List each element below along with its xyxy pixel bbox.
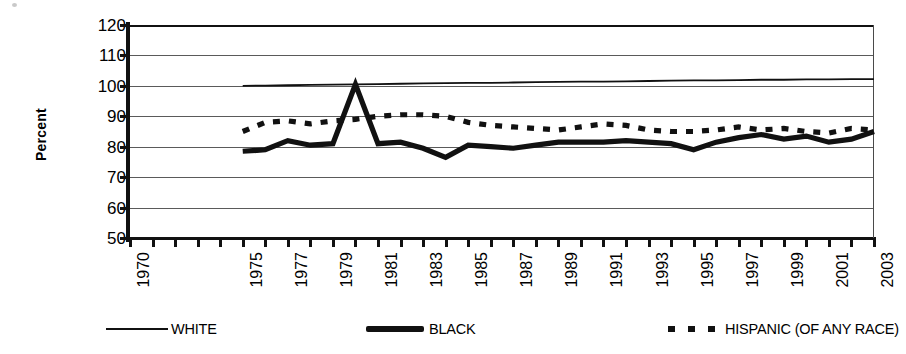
x-axis-tick-1987	[512, 240, 515, 247]
y-axis-tick-labels: 5060708090100110120	[78, 16, 126, 242]
x-axis-tick-1999	[783, 240, 786, 247]
chart-legend: WHITEBLACKHISPANIC (OF ANY RACE)	[106, 318, 806, 344]
x-axis-tick-1974	[219, 240, 222, 247]
legend-entry-white[interactable]: WHITE	[106, 318, 217, 340]
x-axis-tick-1995	[693, 240, 696, 247]
x-axis-tick-1996	[715, 240, 718, 247]
thick-line-swatch	[364, 323, 426, 335]
legend-entry-hispanic-of-any-race[interactable]: HISPANIC (OF ANY RACE)	[660, 318, 899, 340]
x-tick-label-1970: 1970	[136, 252, 152, 288]
x-tick-label-1987: 1987	[519, 252, 535, 288]
legend-label: HISPANIC (OF ANY RACE)	[725, 321, 899, 337]
thin-line-swatch	[106, 323, 168, 335]
x-tick-label-1975: 1975	[249, 252, 265, 288]
y-tick-label-110: 110	[78, 47, 126, 64]
x-tick-label-2001: 2001	[835, 252, 851, 288]
y-axis-tick-100	[120, 85, 129, 88]
y-tick-label-80: 80	[78, 138, 126, 155]
x-axis-tick-1979	[332, 240, 335, 247]
legend-label: BLACK	[429, 321, 476, 337]
y-axis-tick-70	[120, 176, 129, 179]
series-line-white	[243, 79, 874, 86]
x-axis-tick-1975	[242, 240, 245, 247]
y-axis-tick-90	[120, 115, 129, 118]
x-tick-label-1985: 1985	[474, 252, 490, 288]
x-axis-tick-1986	[490, 240, 493, 247]
x-axis-tick-1997	[738, 240, 741, 247]
x-tick-label-1977: 1977	[294, 252, 310, 288]
x-axis-tick-1982	[400, 240, 403, 247]
x-axis-tick-1971	[152, 240, 155, 247]
y-axis-tick-60	[120, 207, 129, 210]
x-tick-label-2003: 2003	[880, 252, 896, 288]
plot-area	[130, 25, 874, 238]
y-axis-tick-50	[120, 237, 129, 240]
x-axis-tick-1991	[602, 240, 605, 247]
x-axis-tick-2001	[828, 240, 831, 247]
x-axis-tick-1978	[309, 240, 312, 247]
dashed-line-swatch	[660, 323, 722, 335]
x-axis-tick-1976	[264, 240, 267, 247]
legend-label: WHITE	[171, 321, 217, 337]
x-axis-tick-1983	[422, 240, 425, 247]
x-axis-tick-1994	[670, 240, 673, 247]
y-tick-label-70: 70	[78, 169, 126, 186]
series-layer	[130, 25, 874, 238]
x-axis-tick-2000	[805, 240, 808, 247]
y-axis-tick-120	[120, 24, 129, 27]
x-tick-label-1983: 1983	[429, 252, 445, 288]
x-tick-label-1995: 1995	[700, 252, 716, 288]
x-axis-tick-1977	[287, 240, 290, 247]
x-tick-label-1993: 1993	[655, 252, 671, 288]
gridline-50	[130, 238, 874, 240]
y-tick-label-100: 100	[78, 77, 126, 94]
x-axis-tick-2002	[850, 240, 853, 247]
x-axis-tick-1973	[197, 240, 200, 247]
legend-entry-black[interactable]: BLACK	[364, 318, 476, 340]
x-axis-tick-1988	[535, 240, 538, 247]
x-axis-tick-2003	[873, 240, 876, 247]
y-tick-label-90: 90	[78, 108, 126, 125]
x-axis-tick-1972	[174, 240, 177, 247]
x-axis-tick-1970	[129, 240, 132, 247]
x-axis-tick-1984	[445, 240, 448, 247]
x-tick-label-1989: 1989	[564, 252, 580, 288]
y-axis-tick-80	[120, 146, 129, 149]
x-axis-tick-1989	[557, 240, 560, 247]
x-tick-label-1991: 1991	[609, 252, 625, 288]
y-tick-label-60: 60	[78, 199, 126, 216]
x-axis-tick-1992	[625, 240, 628, 247]
x-tick-label-1979: 1979	[339, 252, 355, 288]
y-axis-tick-110	[120, 54, 129, 57]
x-tick-label-1999: 1999	[790, 252, 806, 288]
x-axis-tick-1993	[648, 240, 651, 247]
x-axis-tick-1980	[354, 240, 357, 247]
y-tick-label-50: 50	[78, 230, 126, 247]
x-axis-tick-1990	[580, 240, 583, 247]
x-axis-tick-1985	[467, 240, 470, 247]
x-tick-label-1981: 1981	[384, 252, 400, 288]
x-axis-tick-1981	[377, 240, 380, 247]
x-tick-label-1997: 1997	[745, 252, 761, 288]
y-tick-label-120: 120	[78, 17, 126, 34]
line-chart: Percent 5060708090100110120 197019751977…	[0, 0, 906, 354]
y-axis-title: Percent	[6, 100, 76, 170]
x-axis-tick-1998	[760, 240, 763, 247]
scan-artifact-speck	[12, 3, 17, 7]
